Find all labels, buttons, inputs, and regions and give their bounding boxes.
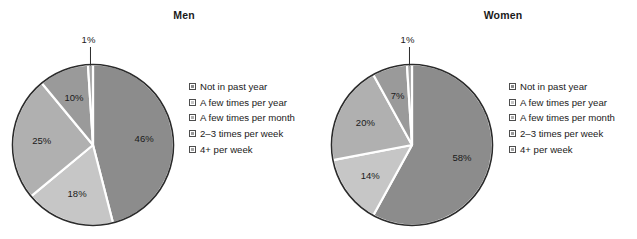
legend-women: Not in past year A few times per year A …	[509, 79, 634, 157]
chart-title-women: Women	[344, 9, 637, 21]
pie-chart-figure: Men 46%18%25%10%1% Not in past year A fe…	[0, 0, 637, 239]
legend-swatch-icon	[509, 130, 516, 137]
legend-swatch-icon	[189, 146, 196, 153]
slice-value-label: 14%	[361, 170, 381, 181]
slice-value-label: 10%	[65, 92, 85, 103]
slice-value-label: 58%	[452, 152, 472, 163]
legend-item[interactable]: 2–3 times per week	[189, 126, 314, 142]
slice-callout-label: 1%	[82, 34, 96, 45]
legend-swatch-icon	[509, 83, 516, 90]
legend-swatch-icon	[509, 146, 516, 153]
legend-swatch-icon	[189, 83, 196, 90]
legend-label: 4+ per week	[520, 144, 573, 155]
slice-value-label: 7%	[391, 90, 405, 101]
legend-swatch-icon	[189, 114, 196, 121]
legend-item[interactable]: 4+ per week	[189, 141, 314, 157]
legend-item[interactable]: Not in past year	[509, 79, 634, 95]
legend-swatch-icon	[189, 99, 196, 106]
legend-label: Not in past year	[200, 81, 267, 92]
pie-svg-men: 46%18%25%10%1%	[12, 64, 174, 227]
pie-slices	[332, 65, 493, 226]
chart-panel-women: Women 58%14%20%7%1% Not in past year A f…	[319, 0, 637, 239]
legend-swatch-icon	[509, 114, 516, 121]
legend-label: A few times per month	[200, 112, 295, 123]
legend-label: A few times per year	[520, 97, 607, 108]
legend-label: A few times per month	[520, 112, 615, 123]
legend-item[interactable]: A few times per year	[509, 95, 634, 111]
slice-callout-label: 1%	[401, 34, 415, 45]
slice-value-label: 20%	[356, 117, 376, 128]
chart-panel-men: Men 46%18%25%10%1% Not in past year A fe…	[0, 0, 318, 239]
legend-men: Not in past year A few times per year A …	[189, 79, 314, 157]
pie-svg-women: 58%14%20%7%1%	[331, 64, 493, 227]
legend-label: 2–3 times per week	[200, 128, 283, 139]
legend-label: 4+ per week	[200, 144, 253, 155]
legend-label: Not in past year	[520, 81, 587, 92]
legend-item[interactable]: A few times per month	[189, 110, 314, 126]
legend-item[interactable]: A few times per year	[189, 95, 314, 111]
legend-swatch-icon	[189, 130, 196, 137]
slice-value-label: 25%	[32, 135, 52, 146]
legend-item[interactable]: 4+ per week	[509, 141, 634, 157]
legend-swatch-icon	[509, 99, 516, 106]
pie-men: 46%18%25%10%1%	[12, 64, 174, 227]
legend-label: A few times per year	[200, 97, 287, 108]
legend-label: 2–3 times per week	[520, 128, 603, 139]
legend-item[interactable]: Not in past year	[189, 79, 314, 95]
slice-value-label: 46%	[135, 133, 155, 144]
chart-title-men: Men	[25, 9, 343, 21]
legend-item[interactable]: A few times per month	[509, 110, 634, 126]
pie-women: 58%14%20%7%1%	[331, 64, 493, 227]
slice-value-label: 18%	[68, 188, 88, 199]
legend-item[interactable]: 2–3 times per week	[509, 126, 634, 142]
